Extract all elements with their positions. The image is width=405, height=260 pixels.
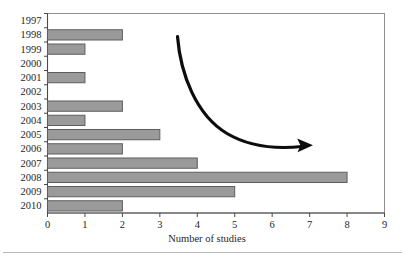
trend-arrow-curve: [178, 37, 303, 148]
y-axis-category-label: 2000: [21, 58, 42, 69]
x-axis-tick-label: 6: [270, 219, 275, 230]
y-axis-labels: 1997199819992000200120022003200420052006…: [21, 15, 43, 211]
y-axis-category-label: 1997: [21, 15, 42, 26]
bar: [48, 72, 85, 82]
x-axis-tick-label: 2: [120, 219, 125, 230]
y-axis-category-label: 2008: [21, 172, 42, 183]
bar-series: [48, 30, 348, 211]
y-axis-category-label: 2001: [21, 72, 42, 83]
x-axis-tick-label: 5: [232, 219, 237, 230]
bar: [48, 44, 85, 54]
x-axis-tick-labels: 0123456789: [45, 219, 387, 230]
bar: [48, 144, 123, 154]
y-axis-category-label: 2005: [21, 129, 42, 140]
bar: [48, 115, 85, 125]
bar: [48, 201, 123, 211]
footer-divider: [3, 252, 402, 253]
x-axis-title: Number of studies: [168, 233, 246, 244]
plot-frame: [48, 14, 385, 214]
figure-panel: 1997199819992000200120022003200420052006…: [0, 0, 405, 260]
x-axis-tick-label: 9: [382, 219, 387, 230]
x-axis-tick-label: 8: [344, 219, 349, 230]
bar-chart: 1997199819992000200120022003200420052006…: [0, 0, 405, 260]
x-axis-tick-label: 4: [195, 219, 201, 230]
x-axis-tick-label: 1: [82, 219, 87, 230]
y-axis-category-label: 2006: [21, 143, 42, 154]
y-axis-category-label: 2002: [21, 86, 42, 97]
y-axis-category-label: 2004: [21, 115, 43, 126]
x-axis-ticks: [48, 213, 385, 217]
y-axis-category-label: 2007: [21, 158, 42, 169]
y-axis-category-label: 1999: [21, 44, 42, 55]
bar: [48, 158, 198, 168]
y-axis-category-label: 2003: [21, 101, 42, 112]
bar: [48, 186, 235, 196]
y-axis-category-label: 2010: [21, 200, 42, 211]
bar: [48, 101, 123, 111]
bar: [48, 30, 123, 40]
downward-trend-arrow: [178, 37, 314, 153]
bar: [48, 129, 160, 139]
y-axis-category-label: 1998: [21, 29, 42, 40]
bar: [48, 172, 348, 182]
x-axis-tick-label: 7: [307, 219, 312, 230]
x-axis-tick-label: 0: [45, 219, 50, 230]
x-axis-tick-label: 3: [157, 219, 162, 230]
y-axis-category-label: 2009: [21, 186, 42, 197]
